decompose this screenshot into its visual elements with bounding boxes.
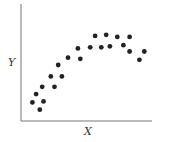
data-point: [115, 35, 120, 40]
data-point: [93, 34, 98, 39]
data-point: [52, 84, 57, 89]
data-point: [66, 55, 71, 60]
data-point: [127, 49, 132, 54]
data-point: [60, 74, 65, 79]
data-point: [40, 84, 45, 89]
data-point: [142, 49, 147, 54]
data-point: [76, 46, 81, 51]
scatter-chart: X Y: [0, 0, 169, 142]
data-point: [34, 92, 39, 97]
data-point: [30, 100, 35, 105]
data-point: [78, 56, 83, 61]
data-point: [56, 63, 61, 68]
y-axis-label: Y: [8, 56, 17, 69]
data-point: [108, 44, 113, 49]
data-point: [41, 99, 46, 104]
data-point: [88, 45, 93, 50]
data-point: [137, 57, 142, 62]
data-point: [121, 43, 126, 48]
x-axis-label: X: [83, 125, 93, 138]
data-points: [30, 32, 147, 112]
data-point: [48, 74, 53, 79]
data-point: [104, 32, 109, 37]
data-point: [37, 107, 42, 112]
data-point: [127, 35, 132, 40]
data-point: [99, 45, 104, 50]
